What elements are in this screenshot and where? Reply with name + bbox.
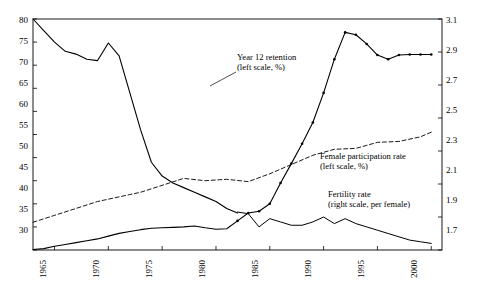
series-marker xyxy=(430,53,433,56)
chart-plot-area xyxy=(0,0,482,284)
series-marker xyxy=(398,54,401,57)
chart-root: 80 75 70 65 60 55 50 45 40 35 30 3.1 2.9… xyxy=(0,0,482,284)
plot-frame xyxy=(33,19,442,250)
series-marker xyxy=(387,58,390,61)
series-marker xyxy=(279,182,282,185)
series-line-year-12-retention-descending-early-segment- xyxy=(33,19,238,213)
series-marker xyxy=(290,162,293,165)
series-marker xyxy=(301,142,304,145)
series-line-year-12-retention xyxy=(33,32,431,249)
series-marker xyxy=(333,58,336,61)
series-marker xyxy=(376,54,379,57)
series-marker xyxy=(236,220,239,223)
series-marker xyxy=(268,203,271,206)
series-line-female-participation-rate xyxy=(33,132,431,222)
series-marker xyxy=(258,210,261,213)
series-marker xyxy=(322,92,325,95)
series-marker xyxy=(419,53,422,56)
series-marker xyxy=(247,212,250,215)
series-marker xyxy=(408,53,411,56)
series-marker xyxy=(344,31,347,34)
year12-leader-line xyxy=(210,72,236,86)
series-marker xyxy=(365,43,368,46)
series-marker xyxy=(312,121,315,124)
series-marker xyxy=(355,33,358,36)
series-line-fertility-rate xyxy=(238,212,432,243)
